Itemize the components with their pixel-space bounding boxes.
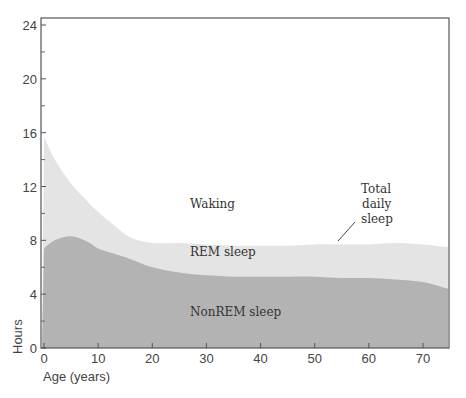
y-tick-label: 12 (23, 180, 37, 195)
sleep-by-age-chart: 010203040506070 04812162024 Waking REM s… (0, 0, 466, 398)
total-sleep-label-line1: Total (361, 182, 391, 196)
x-tick-label: 30 (199, 351, 213, 366)
y-tick-label: 8 (30, 233, 37, 248)
x-tick-label: 60 (362, 351, 376, 366)
total-sleep-label-line3: sleep (361, 212, 393, 226)
x-tick-label: 40 (253, 351, 267, 366)
y-axis-title: Hours (10, 319, 25, 354)
x-tick-label: 70 (416, 351, 430, 366)
nonrem-sleep-label: NonREM sleep (190, 305, 282, 319)
total-sleep-label-line2: daily (362, 197, 392, 211)
y-tick-label: 4 (30, 287, 37, 302)
x-axis-title: Age (years) (43, 369, 110, 384)
waking-label: Waking (190, 197, 235, 211)
y-tick-label: 16 (23, 126, 37, 141)
rem-sleep-label: REM sleep (190, 245, 256, 259)
x-tick-label: 20 (145, 351, 159, 366)
total-sleep-pointer-line (338, 222, 355, 241)
x-tick-label: 50 (307, 351, 321, 366)
x-tick-label: 0 (40, 351, 47, 366)
y-tick-label: 24 (23, 18, 37, 33)
y-tick-label: 0 (30, 341, 37, 356)
x-tick-label: 10 (91, 351, 105, 366)
y-tick-label: 20 (23, 72, 37, 87)
